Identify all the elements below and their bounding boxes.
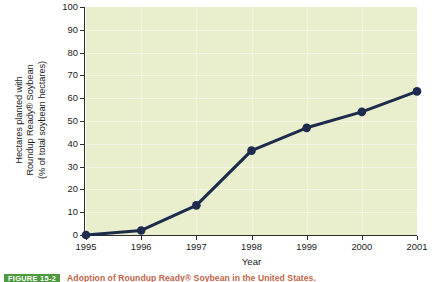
- y-tick-label-60: 60: [56, 93, 78, 103]
- y-axis-title: Hectares planted with Roundup Ready® Soy…: [0, 0, 62, 240]
- x-tick-label-2000: 2000: [342, 241, 382, 253]
- x-tick-mark-1995: [86, 236, 87, 240]
- y-tick-label-40: 40: [56, 139, 78, 149]
- figure-container: Hectares planted with Roundup Ready® Soy…: [0, 0, 432, 282]
- data-point-2000: [358, 108, 367, 117]
- figure-caption: FIGURE 15-2 Adoption of Roundup Ready® S…: [0, 274, 432, 282]
- data-point-1998: [247, 146, 256, 155]
- x-tick-label-1999: 1999: [287, 241, 327, 253]
- y-tick-label-70: 70: [56, 70, 78, 80]
- x-tick-label-2001: 2001: [397, 241, 432, 253]
- figure-number-badge: FIGURE 15-2: [4, 274, 60, 282]
- x-tick-mark-1999: [307, 236, 308, 240]
- y-tick-label-20: 20: [56, 184, 78, 194]
- x-tick-label-1995: 1995: [66, 241, 106, 253]
- y-axis-title-line-2: Roundup Ready® Soybean: [25, 64, 37, 175]
- x-tick-mark-2001: [417, 236, 418, 240]
- x-tick-mark-1998: [252, 236, 253, 240]
- y-tick-label-100: 100: [56, 2, 78, 12]
- y-axis-title-line-1: Hectares planted with: [14, 76, 26, 163]
- plot-area: [86, 7, 417, 235]
- y-tick-label-90: 90: [56, 25, 78, 35]
- y-tick-label-80: 80: [56, 48, 78, 58]
- y-axis-title-line-3: (% of total soybean hectares): [37, 61, 49, 179]
- y-tick-label-50: 50: [56, 116, 78, 126]
- x-tick-label-1998: 1998: [232, 241, 272, 253]
- y-tick-label-10: 10: [56, 207, 78, 217]
- x-axis-tick-labels: 1995199619971998199920002001: [86, 241, 417, 255]
- data-point-2001: [413, 87, 422, 96]
- data-point-1996: [137, 226, 146, 235]
- y-axis-tick-labels: 0102030405060708090100: [56, 0, 78, 242]
- y-tick-label-0: 0: [56, 230, 78, 240]
- y-axis-line: [84, 7, 85, 236]
- data-point-1997: [192, 201, 201, 210]
- x-tick-mark-2000: [362, 236, 363, 240]
- figure-caption-text: Adoption of Roundup Ready® Soybean in th…: [67, 274, 432, 282]
- series-line-roundup-ready-soybean: [86, 91, 417, 235]
- x-axis-title: Year: [86, 256, 417, 267]
- x-tick-label-1997: 1997: [176, 241, 216, 253]
- x-tick-mark-1997: [196, 236, 197, 240]
- gridline-vertical: [417, 7, 418, 235]
- x-tick-mark-1996: [141, 236, 142, 240]
- y-tick-label-30: 30: [56, 162, 78, 172]
- x-tick-label-1996: 1996: [121, 241, 161, 253]
- data-series-layer: [86, 7, 417, 235]
- data-point-1999: [302, 124, 311, 133]
